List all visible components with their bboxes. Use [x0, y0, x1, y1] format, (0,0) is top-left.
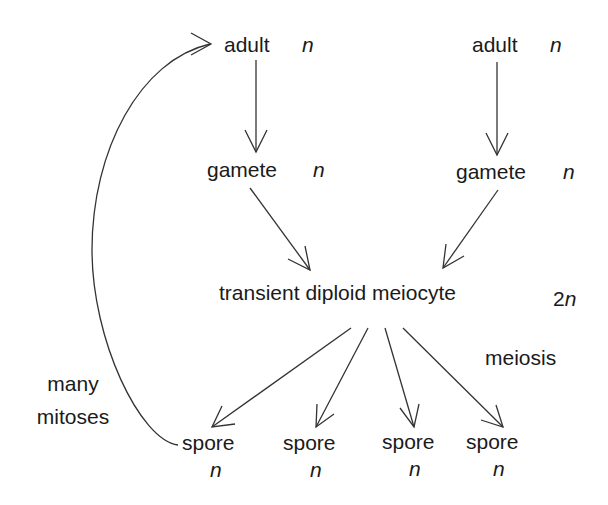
spore-ploidy: n [310, 458, 322, 481]
adult-left-label: adult [224, 33, 270, 56]
mitoses-label-line2: mitoses [37, 405, 109, 428]
meiosis-label: meiosis [485, 346, 556, 369]
spore-label: spore [182, 431, 235, 454]
spore-label: spore [283, 431, 336, 454]
meiocyte-label: transient diploid meiocyte [219, 281, 456, 304]
adult-left-ploidy: n [302, 33, 314, 56]
spore-ploidy: n [493, 457, 505, 480]
adult-right-ploidy: n [550, 33, 562, 56]
spore-label: spore [382, 430, 435, 453]
gamete-right-ploidy: n [563, 160, 575, 183]
meiocyte-ploidy: 2n [553, 287, 576, 310]
gamete-left-label: gamete [207, 158, 277, 181]
gamete-left-ploidy: n [313, 158, 325, 181]
gamete-right-label: gamete [456, 160, 526, 183]
spore-ploidy: n [409, 457, 421, 480]
life-cycle-diagram: adult n adult n gamete n gamete n transi… [0, 0, 608, 505]
adult-right-label: adult [472, 33, 518, 56]
spore-label: spore [466, 430, 519, 453]
spore-ploidy: n [210, 458, 222, 481]
mitoses-label-line1: many [47, 372, 99, 395]
